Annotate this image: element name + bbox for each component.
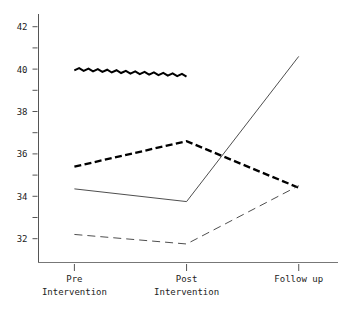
chart-plot-area: 323436384042 PreInterventionPostInterven…	[0, 0, 340, 314]
series-line-thin-solid-series	[74, 56, 298, 201]
x-axis-ticks	[74, 264, 298, 271]
x-axis-tick-label: Follow up	[274, 274, 323, 284]
y-axis-tick-label: 40	[17, 65, 28, 75]
x-axis-tick-label: Pre	[66, 274, 82, 284]
series-line-thin-long-dashed-series	[74, 186, 298, 244]
y-axis-tick-label: 34	[17, 192, 28, 202]
chart-series-layer	[74, 56, 298, 244]
figure-caption-ghost	[0, 307, 340, 314]
line-chart-figure: 323436384042 PreInterventionPostInterven…	[0, 0, 340, 314]
series-line-thick-dashed-series	[74, 141, 298, 188]
y-axis-tick-label: 42	[17, 22, 28, 32]
y-axis-tick-labels: 323436384042	[17, 22, 28, 244]
x-axis-tick-label: Post	[176, 274, 198, 284]
x-axis-tick-label: Intervention	[154, 287, 219, 297]
series-line-wavy-thick-series	[74, 68, 186, 77]
x-axis-tick-labels: PreInterventionPostInterventionFollow up	[42, 274, 323, 297]
x-axis-tick-label: Intervention	[42, 287, 107, 297]
y-axis-tick-label: 36	[17, 149, 28, 159]
y-axis-tick-label: 38	[17, 107, 28, 117]
y-axis-minor-ticks	[33, 48, 38, 218]
y-axis-tick-label: 32	[17, 234, 28, 244]
